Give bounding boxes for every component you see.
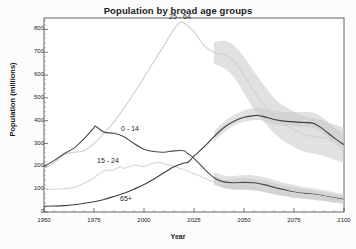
series-annotation: 0 - 14 (121, 125, 139, 132)
series-annotation: 65+ (120, 195, 132, 202)
series-annotation: 25 - 64 (169, 13, 191, 20)
series-annotation: 15 - 24 (97, 157, 119, 164)
chart-figure: Population by broad age groups Populatio… (0, 0, 356, 249)
plot-area: 25 - 640 - 1415 - 2465+ (0, 0, 356, 249)
